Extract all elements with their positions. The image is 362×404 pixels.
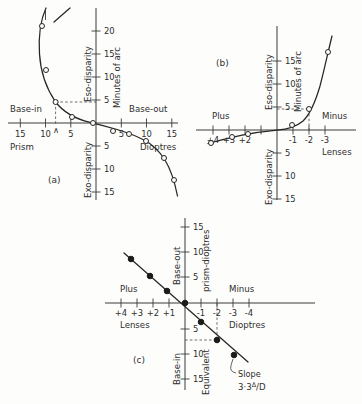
panel-b-ytick-dn-15: 15 [285,194,296,204]
panel-c-xtick-plus-2: +2 [147,308,159,318]
panel-b-plus-label: Plus [212,111,230,121]
panel-b-lenses-label: Lenses [322,147,352,157]
data-point [127,132,132,137]
panel-c-xtick-minus-3: -3 [229,308,237,318]
data-point [91,121,96,126]
panel-c-plus-label: Plus [120,284,138,294]
data-point [246,132,251,137]
panel-b-exo-label: Exo-disparity [264,149,274,205]
panel-b-unit-label: Minutes of arc [293,51,303,112]
panel-b-eso-label: Eso-disparity [264,54,274,110]
data-point [290,123,295,128]
data-point [53,100,58,105]
panel-b-minus-label: Minus [322,111,348,121]
panel-c-slope-leader [231,359,236,373]
panel-c-slope-value: 3·3Δ/D [238,381,266,393]
panel-b-ytick-dn-5: 5 [285,148,290,158]
panel-c-base-in-label: Base-in [172,353,182,385]
data-point [147,273,153,279]
panel-b-xtick-minus-2: -2 [305,135,313,145]
panel-a-ytick-up-20: 20 [104,26,115,36]
panel-a-xtick-left-10: 10 [40,129,51,139]
slope-denominator: /D [256,382,266,392]
data-point [128,256,134,262]
panel-c-xtick-minus-4: -4 [245,308,253,318]
panel-a-ytick-up-5: 5 [104,95,109,105]
panel-a-upper-segment [54,8,70,22]
panel-c-xtick-plus-1: +1 [163,308,175,318]
panel-c-xtick-minus-1: -1 [197,308,205,318]
data-point [144,139,149,144]
data-point [230,135,235,140]
data-point [231,352,237,358]
panel-c-unit-label: prism-dioptres [201,229,211,292]
panel-a-ytick-dn-5: 5 [104,141,109,151]
panel-a-xtick-left-15: 15 [15,129,26,139]
panel-a-base-out-label: Base-out [129,104,168,114]
panel-b-ytick-up-5: 5 [285,102,290,112]
panel-c-dioptres-label: Dioptres [229,320,266,330]
data-point [40,24,45,29]
panel-c-equivalent-label: Equivalent [201,349,211,395]
data-point [326,50,331,55]
panel-c-lenses-label: Lenses [120,320,150,330]
panel-a-ytick-dn-10: 10 [104,164,115,174]
panel-c-label: (c) [133,355,145,365]
data-point [198,319,204,325]
slope-number: 3·3 [238,382,252,392]
panel-b-ytick-dn-10: 10 [285,171,296,181]
panel-b-xtick-minus-3: -3 [321,135,329,145]
panel-b-xtick-minus-1: -1 [289,135,297,145]
data-point [44,68,49,73]
data-point [307,107,312,112]
panel-a-label: (a) [48,175,61,185]
data-point [162,156,167,161]
figure-svg: 15 10 5 5 10 15 5 10 15 20 5 10 15 Eso-d… [0,0,362,404]
panel-b-label: (b) [216,58,229,68]
panel-a-exo-label: Exo-disparity [83,142,93,198]
panel-c-ytick-up-5: 5 [193,272,198,282]
data-point [214,337,220,343]
panel-c-xtick-plus-4: +4 [115,308,127,318]
data-point [209,141,214,146]
panel-c: +4 +3 +2 +1 -1 -2 -3 -4 5 10 15 5 10 15 … [105,218,315,395]
panel-c-xtick-plus-3: +3 [131,308,143,318]
panel-a-reference-marker: ∧ [53,125,59,135]
panel-c-ytick-dn-5: 5 [193,324,198,334]
panel-b: +4 +3 +2 -1 -2 -3 5 10 15 5 10 15 Eso-di… [196,26,356,205]
panel-a-prism-label: Prism [10,142,34,152]
data-point [164,288,170,294]
panel-a-ytick-dn-15: 15 [104,187,115,197]
panel-a-unit-label: Minutes of arc [112,47,122,108]
panel-c-base-out-label: Base-out [172,246,182,285]
figure-container: 15 10 5 5 10 15 5 10 15 20 5 10 15 Eso-d… [0,0,362,404]
panel-a-xtick-left-5: 5 [68,129,73,139]
panel-a-xtick-right-15: 15 [166,129,177,139]
data-point [172,178,177,183]
data-point [70,115,75,120]
panel-c-slope-title: Slope [238,369,261,379]
panel-a-eso-label: Eso-disparity [83,46,93,102]
panel-c-minus-label: Minus [229,284,255,294]
data-point [182,300,188,306]
panel-a: 15 10 5 5 10 15 5 10 15 20 5 10 15 Eso-d… [8,8,178,200]
panel-a-xtick-right-10: 10 [141,129,152,139]
data-point [111,129,116,134]
panel-a-base-in-label: Base-in [10,104,42,114]
